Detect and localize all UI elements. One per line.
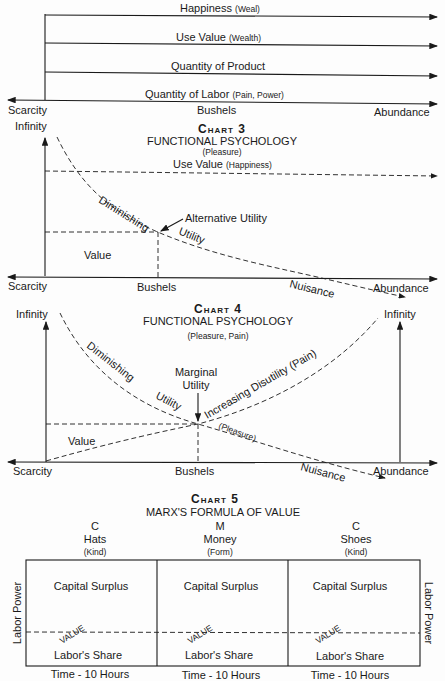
- bushels-axis: [8, 462, 437, 463]
- infinity-label: Infinity: [15, 120, 47, 132]
- col-1-labors-share: Labor's Share: [54, 649, 122, 661]
- nuisance-label: Nuisance: [289, 277, 336, 300]
- pleasure-label: (Pleasure): [217, 420, 257, 443]
- scarcity-label: Scarcity: [13, 465, 53, 477]
- col-3-letter: C: [352, 520, 360, 532]
- bushels-label: Bushels: [197, 104, 237, 116]
- quantity-labor-label: Quantity of Labor (Pain, Power): [145, 88, 284, 100]
- col-3-labors-share: Labor's Share: [316, 650, 384, 662]
- col-1-time: Time - 10 Hours: [51, 668, 130, 680]
- abundance-label: Abundance: [373, 282, 429, 294]
- value-label: Value: [68, 435, 95, 447]
- chart-2: Happiness (Weal) Use Value (Wealth) Quan…: [8, 2, 437, 118]
- nuisance-label: Nuisance: [299, 460, 346, 483]
- chart-3-subtitle: FUNCTIONAL PSYCHOLOGY: [147, 135, 298, 147]
- chart-3: Chart 3 FUNCTIONAL PSYCHOLOGY (Pleasure)…: [8, 120, 437, 300]
- quantity-product-line: [45, 72, 437, 76]
- use-value-dashed-line: [45, 171, 437, 176]
- abundance-label: Abundance: [373, 465, 429, 477]
- quantity-product-label: Quantity of Product: [171, 60, 265, 72]
- labor-power-right: Labor Power: [423, 582, 435, 645]
- chart-3-title: Chart 3: [198, 122, 246, 136]
- diagram-canvas: Happiness (Weal) Use Value (Wealth) Quan…: [0, 0, 445, 681]
- happiness-line: [45, 15, 437, 17]
- col-3-value: VALUE: [314, 623, 343, 646]
- col-2-time: Time - 10 Hours: [182, 669, 261, 681]
- bushels-label: Bushels: [175, 465, 215, 477]
- chart-5: Chart 5 MARX'S FORMULA OF VALUE C Hats (…: [11, 492, 435, 681]
- infinity-left-label: Infinity: [16, 308, 48, 320]
- happiness-label: Happiness (Weal): [180, 2, 260, 14]
- col-1-name: Hats: [84, 533, 107, 545]
- use-value-label: Use Value (Wealth): [176, 31, 261, 43]
- abundance-label: Abundance: [374, 106, 430, 118]
- col-3-name: Shoes: [340, 533, 372, 545]
- col-3-time: Time - 10 Hours: [311, 669, 390, 681]
- use-value-label: Use Value (Happiness): [173, 158, 272, 170]
- value-dashed-line: [26, 632, 420, 633]
- chart-4: Chart 4 FUNCTIONAL PSYCHOLOGY (Pleasure,…: [8, 302, 437, 484]
- col-2-value: VALUE: [186, 623, 215, 646]
- scarcity-label: Scarcity: [8, 104, 48, 116]
- chart-3-subnote: (Pleasure): [202, 147, 241, 157]
- col-2-name: Money: [203, 533, 237, 545]
- marginal-utility-label: Utility: [183, 379, 210, 391]
- marginal-label: Marginal: [175, 366, 217, 378]
- scarcity-label: Scarcity: [8, 280, 48, 292]
- chart-5-subtitle: MARX'S FORMULA OF VALUE: [146, 506, 300, 518]
- labor-power-left: Labor Power: [11, 581, 23, 644]
- increasing-disutility-label: Increasing Disutility (Pain): [202, 347, 318, 421]
- diminishing-label: Diminishing: [97, 194, 152, 234]
- col-1-capital-surplus: Capital Surplus: [54, 580, 129, 592]
- col-1-kind: (Kind): [84, 547, 107, 557]
- economic-charts-page: Happiness (Weal) Use Value (Wealth) Quan…: [0, 0, 445, 681]
- col-1-letter: C: [91, 520, 99, 532]
- chart-4-subnote: (Pleasure, Pain): [188, 331, 249, 341]
- infinity-right-label: Infinity: [384, 308, 416, 320]
- col-2-capital-surplus: Capital Surplus: [184, 580, 259, 592]
- use-value-line: [45, 43, 437, 46]
- col-3-kind: (Kind): [345, 547, 368, 557]
- alternative-utility-label: Alternative Utility: [185, 212, 267, 224]
- col-2-labors-share: Labor's Share: [185, 649, 253, 661]
- col-2-kind: (Form): [207, 547, 233, 557]
- col-3-capital-surplus: Capital Surplus: [313, 580, 388, 592]
- col-1-value: VALUE: [58, 623, 87, 646]
- chart-4-subtitle: FUNCTIONAL PSYCHOLOGY: [143, 315, 294, 327]
- bushels-label: Bushels: [137, 281, 177, 293]
- chart-4-title: Chart 4: [194, 302, 242, 316]
- col-2-letter: M: [215, 520, 224, 532]
- utility-label: Utility: [177, 225, 207, 246]
- chart-5-title: Chart 5: [191, 492, 239, 506]
- value-label: Value: [84, 249, 111, 261]
- bushels-axis: [8, 277, 437, 279]
